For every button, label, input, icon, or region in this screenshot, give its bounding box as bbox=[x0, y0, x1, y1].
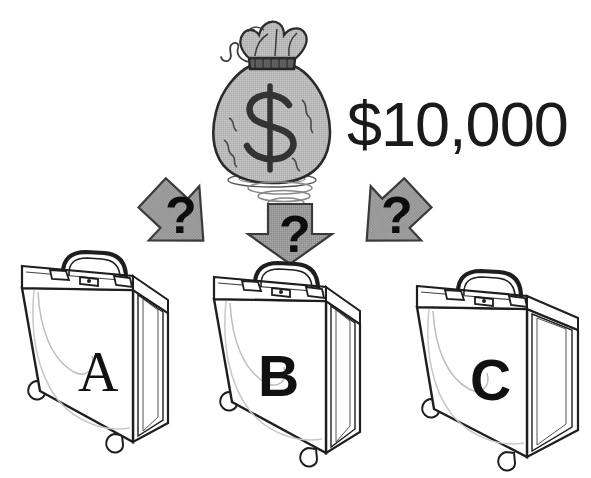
briefcase-a-foot-right bbox=[106, 434, 123, 452]
briefcase-b-label: B bbox=[258, 348, 299, 405]
briefcase-b-foot-right bbox=[300, 448, 317, 466]
illustration-canvas: $10,000 ? ? ? bbox=[0, 0, 591, 478]
briefcase-c-side-panel bbox=[527, 309, 578, 457]
briefcase-c-strap-left bbox=[445, 290, 464, 300]
briefcase-a-label: A bbox=[78, 344, 118, 400]
briefcase-c-foot-right bbox=[498, 452, 515, 470]
briefcase-c-strap-right bbox=[509, 296, 527, 307]
briefcase-c-label: C bbox=[470, 352, 511, 409]
briefcase-b-strap-right bbox=[306, 287, 324, 298]
briefcase-a-strap-left bbox=[50, 270, 69, 280]
briefcase-a-strap-right bbox=[114, 276, 132, 287]
briefcase-b-strap-left bbox=[242, 281, 261, 291]
